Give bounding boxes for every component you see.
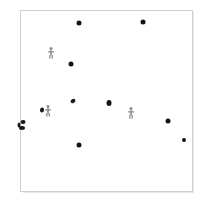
plot-frame — [20, 10, 193, 192]
scatter-map-canvas — [0, 0, 210, 208]
cluster-blob-upper — [21, 120, 26, 124]
person-icon[interactable] — [45, 105, 52, 117]
data-point-dot[interactable] — [77, 143, 82, 148]
person-icon[interactable] — [48, 47, 55, 59]
data-point-dot[interactable] — [77, 21, 82, 26]
person-icon[interactable] — [128, 107, 135, 119]
data-point-dot[interactable] — [182, 138, 186, 142]
data-point-dot[interactable] — [107, 100, 112, 106]
data-point-blob[interactable] — [40, 108, 44, 113]
data-point-dot[interactable] — [166, 119, 171, 124]
cluster-blob-edge — [18, 123, 21, 128]
data-point-dot[interactable] — [141, 20, 146, 25]
data-point-blob[interactable] — [70, 98, 76, 104]
data-point-dot[interactable] — [69, 62, 74, 67]
cluster-icon[interactable] — [17, 118, 29, 132]
